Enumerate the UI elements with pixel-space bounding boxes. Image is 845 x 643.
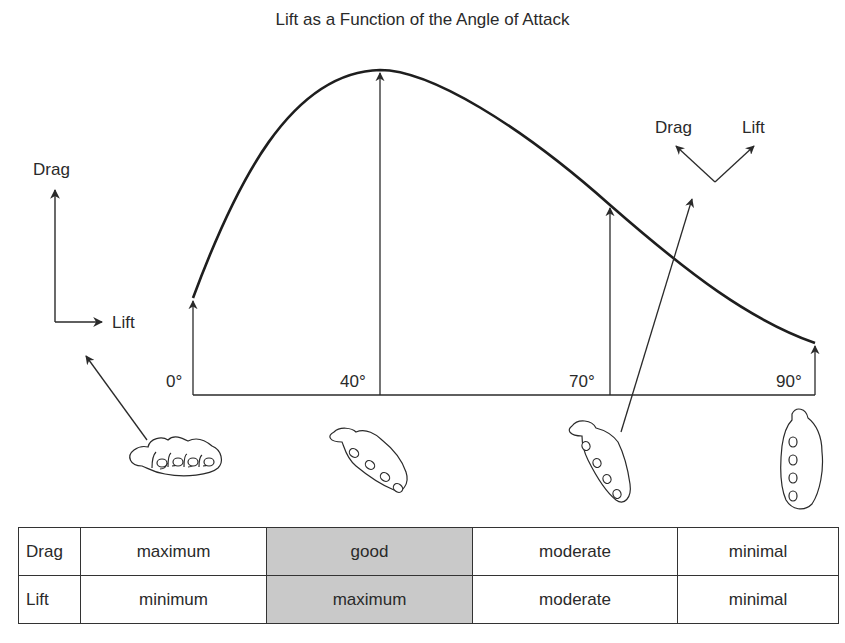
angle-label-0: 0°	[166, 372, 182, 392]
table-cell: maximum	[81, 528, 267, 576]
left-lift-label: Lift	[112, 313, 135, 333]
table-cell-highlighted: good	[267, 528, 473, 576]
lift-diagram	[0, 0, 845, 525]
left-axes	[55, 190, 102, 322]
drag-vector-arrow-icon	[676, 146, 715, 182]
hand-90-icon	[781, 409, 823, 509]
lift-curve	[193, 70, 815, 343]
row-header-lift: Lift	[19, 576, 81, 624]
table-cell: minimum	[81, 576, 267, 624]
table-row-lift: Lift minimum maximum moderate minimal	[19, 576, 839, 624]
hand-70-icon	[569, 421, 630, 502]
tilted-hand-force-arrow-icon	[621, 199, 692, 432]
table-cell: moderate	[473, 528, 678, 576]
right-drag-label: Drag	[655, 118, 692, 138]
left-drag-label: Drag	[33, 160, 70, 180]
angle-label-90: 90°	[776, 372, 802, 392]
right-force-vectors	[676, 146, 754, 182]
hand-0-icon	[130, 437, 222, 476]
table-cell: minimal	[678, 528, 839, 576]
table-cell: moderate	[473, 576, 678, 624]
lift-vector-arrow-icon	[715, 146, 754, 182]
table-cell: minimal	[678, 576, 839, 624]
right-lift-label: Lift	[742, 118, 765, 138]
angle-label-70: 70°	[569, 372, 595, 392]
row-header-drag: Drag	[19, 528, 81, 576]
table-cell-highlighted: maximum	[267, 576, 473, 624]
drag-lift-table: Drag maximum good moderate minimal Lift …	[18, 527, 839, 624]
angle-label-40: 40°	[340, 372, 366, 392]
table-row-drag: Drag maximum good moderate minimal	[19, 528, 839, 576]
hand-40-icon	[330, 428, 407, 494]
flat-hand-force-arrow-icon	[86, 356, 147, 440]
